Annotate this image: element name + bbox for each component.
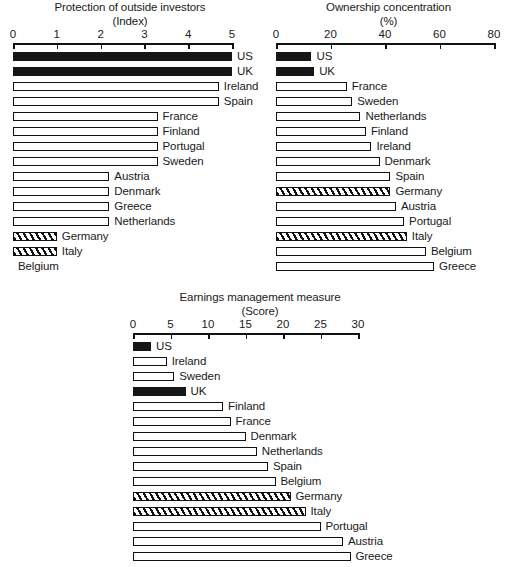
bar-label-france: France (163, 110, 198, 123)
bar-austria (133, 537, 343, 546)
bar-label-belgium: Belgium (18, 260, 59, 273)
bar-row: Portugal (100, 520, 420, 535)
bar-row: Greece (100, 550, 420, 565)
bar-row: Sweden (260, 95, 517, 110)
bar-label-netherlands: Netherlands (262, 445, 323, 458)
axis-tick-label: 4 (185, 28, 191, 41)
chart-subtitle-earnings: (Score) (100, 304, 420, 318)
bar-row: Portugal (260, 215, 517, 230)
bar-row: Finland (0, 125, 260, 140)
bar-label-uk: UK (319, 65, 335, 78)
bar-label-greece: Greece (114, 200, 151, 213)
bar-germany (13, 232, 57, 241)
bar-row: Germany (100, 490, 420, 505)
bar-row: Austria (0, 170, 260, 185)
bar-sweden (276, 97, 352, 106)
bar-row: Netherlands (100, 445, 420, 460)
bar-belgium (133, 477, 276, 486)
bar-denmark (133, 432, 246, 441)
bar-france (13, 112, 158, 121)
bar-row: France (0, 110, 260, 125)
axis-tick-label: 25 (314, 318, 327, 331)
bar-row: UK (260, 65, 517, 80)
bar-row: Austria (100, 535, 420, 550)
bar-row: Belgium (260, 245, 517, 260)
bar-label-italy: Italy (311, 505, 332, 518)
bar-row: Spain (0, 95, 260, 110)
bar-row: Greece (260, 260, 517, 275)
x-axis-tick-labels-protection: 012345 (0, 28, 260, 41)
bar-france (133, 417, 231, 426)
axis-tick-label: 2 (97, 28, 103, 41)
axis-tick-label: 1 (54, 28, 60, 41)
bar-row: France (100, 415, 420, 430)
bar-row: Finland (260, 125, 517, 140)
x-axis-line-earnings (100, 333, 420, 340)
bar-row: Denmark (0, 185, 260, 200)
bar-label-sweden: Sweden (163, 155, 204, 168)
bar-row: Netherlands (0, 215, 260, 230)
bar-row: Germany (0, 230, 260, 245)
x-axis-protection: 012345 (0, 28, 260, 50)
axis-tick-label: 80 (488, 28, 501, 41)
bar-row: Finland (100, 400, 420, 415)
bar-ireland (276, 142, 371, 151)
bar-spain (276, 172, 390, 181)
bar-row: US (260, 50, 517, 65)
bar-row: Greece (0, 200, 260, 215)
chart-panel-protection-of-outside-investors: Protection of outside investors (Index) … (0, 0, 260, 275)
axis-tick-label: 3 (141, 28, 147, 41)
axis-tick-label: 0 (130, 318, 136, 331)
bar-label-germany: Germany (395, 185, 442, 198)
axis-tick-label: 10 (202, 318, 215, 331)
axis-tick-mark (358, 333, 360, 339)
x-axis-line-ownership (260, 43, 517, 50)
bar-series-protection: USUKIrelandSpainFranceFinlandPortugalSwe… (0, 50, 260, 275)
axis-tick-mark (331, 43, 333, 49)
chart-subtitle-ownership: (%) (260, 14, 517, 28)
bar-row: Italy (100, 505, 420, 520)
bar-row: Germany (260, 185, 517, 200)
bar-label-ireland: Ireland (224, 80, 258, 93)
axis-tick-mark (321, 333, 323, 339)
bar-row: Sweden (0, 155, 260, 170)
bar-label-ireland: Ireland (172, 355, 206, 368)
axis-tick-mark (188, 43, 190, 49)
bar-spain (133, 462, 268, 471)
bar-label-spain: Spain (395, 170, 424, 183)
bar-portugal (13, 142, 158, 151)
chart-subtitle-protection: (Index) (0, 14, 260, 28)
axis-tick-label: 0 (273, 28, 279, 41)
bar-label-portugal: Portugal (163, 140, 205, 153)
bar-label-portugal: Portugal (326, 520, 368, 533)
bar-germany (276, 187, 390, 196)
bar-italy (276, 232, 407, 241)
bar-row: UK (100, 385, 420, 400)
bar-label-germany: Germany (62, 230, 109, 243)
bar-italy (133, 507, 306, 516)
bar-denmark (13, 187, 109, 196)
bar-label-italy: Italy (412, 230, 433, 243)
bar-row: US (100, 340, 420, 355)
axis-tick-label: 0 (10, 28, 16, 41)
axis-tick-mark (171, 333, 173, 339)
bar-label-spain: Spain (273, 460, 302, 473)
axis-tick-mark (283, 333, 285, 339)
x-axis-earnings: 051015202530 (100, 318, 420, 340)
bar-sweden (133, 372, 174, 381)
bar-label-ireland: Ireland (376, 140, 410, 153)
bar-label-finland: Finland (228, 400, 265, 413)
bar-label-austria: Austria (401, 200, 436, 213)
bar-label-portugal: Portugal (409, 215, 451, 228)
axis-tick-mark (276, 43, 278, 49)
bar-label-germany: Germany (296, 490, 343, 503)
bar-us (133, 342, 151, 351)
bar-greece (13, 202, 109, 211)
bar-germany (133, 492, 291, 501)
bar-label-netherlands: Netherlands (114, 215, 175, 228)
bar-label-us: US (156, 340, 172, 353)
bar-label-us: US (316, 50, 332, 63)
bar-row: Spain (100, 460, 420, 475)
axis-tick-mark (385, 43, 387, 49)
bar-label-spain: Spain (224, 95, 253, 108)
